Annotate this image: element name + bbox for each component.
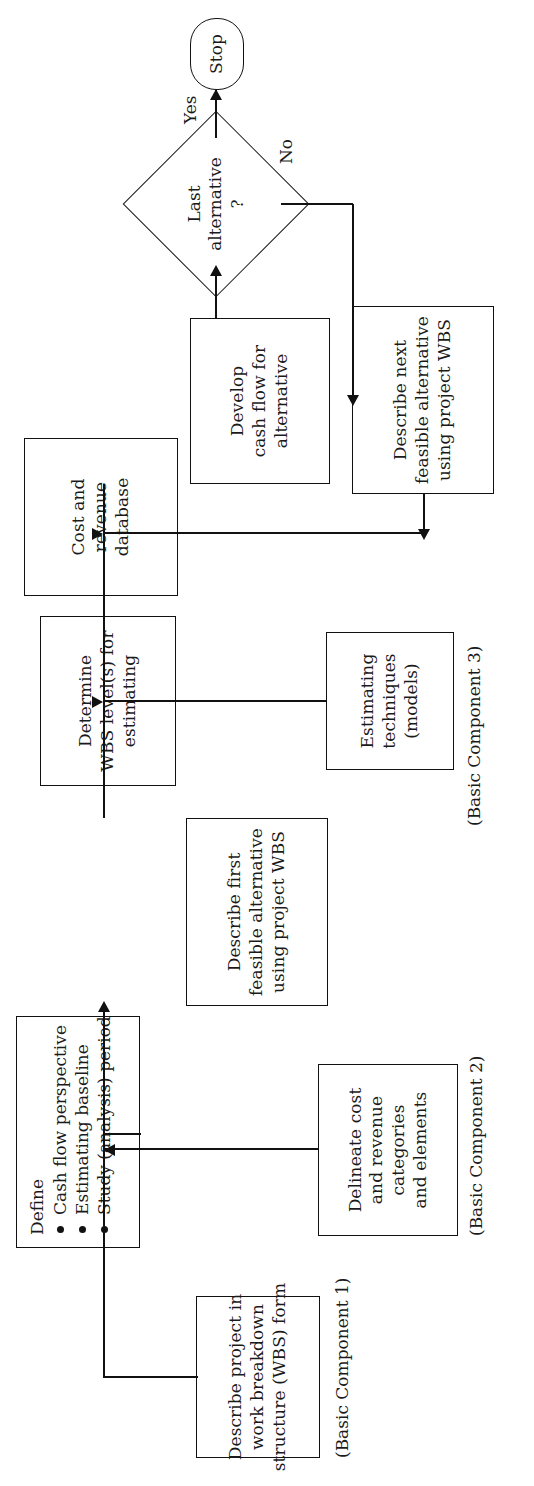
define-bullet-list: Cash flow perspective Estimating baselin… <box>49 1029 115 1235</box>
arrow-yes-into-stop <box>210 89 222 100</box>
node-line: Last <box>184 186 205 223</box>
node-line: categories <box>388 1105 410 1196</box>
node-line: Describe project in <box>225 1294 247 1460</box>
node-estimating-techniques[interactable]: Estimating techniques (models) <box>326 632 454 770</box>
node-describe-project-wbs[interactable]: Describe project in work breakdown struc… <box>196 1296 320 1458</box>
node-line: techniques <box>379 653 401 748</box>
node-line: using project WBS <box>268 831 290 993</box>
node-line: Estimating <box>357 654 379 749</box>
node-line: feasible alternative <box>246 828 268 996</box>
node-line: ? <box>227 199 248 208</box>
connector-define-stub <box>103 1133 141 1135</box>
spine-segment-1 <box>103 1006 105 1378</box>
list-item: Cash flow perspective <box>49 1029 71 1235</box>
node-line: alternative <box>205 157 226 251</box>
node-line: Stop <box>206 34 228 74</box>
diamond-text: Last alternative ? <box>150 138 282 270</box>
node-line: feasible alternative <box>412 316 434 484</box>
edge-label-no: No <box>276 139 296 164</box>
bullet-icon <box>57 1226 64 1233</box>
node-line: revenue <box>90 482 112 553</box>
node-line: and elements <box>410 1092 432 1209</box>
node-define[interactable]: Define Cash flow perspective Estimating … <box>16 1016 140 1248</box>
node-describe-first-alternative[interactable]: Describe first feasible alternative usin… <box>186 818 328 1006</box>
list-item: Estimating baseline <box>71 1029 93 1235</box>
connector-loopback-horizontal <box>423 493 425 534</box>
flowchart-canvas: Describe project in work breakdown struc… <box>0 0 534 1486</box>
rotated-page-wrapper: Describe project in work breakdown struc… <box>0 0 534 1486</box>
spine-segment-3 <box>103 484 105 536</box>
define-bullet-text: Cash flow perspective <box>50 1025 70 1215</box>
node-decision-last-alternative[interactable]: Last alternative ? <box>150 138 282 270</box>
node-line: Cost and <box>68 479 90 556</box>
node-line: work breakdown <box>247 1304 269 1450</box>
spine-segment-2 <box>103 536 105 818</box>
node-line: Describe first <box>224 853 246 972</box>
node-line: Delineate cost <box>345 1088 367 1213</box>
label-basic-component-2: (Basic Component 2) <box>466 1056 486 1236</box>
label-basic-component-1: (Basic Component 1) <box>332 1278 352 1458</box>
node-cost-revenue-database[interactable]: Cost and revenue database <box>24 438 178 596</box>
arrow-spine-into-describe-first <box>98 1001 110 1012</box>
node-line: cash flow for <box>249 345 271 458</box>
connector-delineate-to-spine <box>104 1148 318 1150</box>
node-line: Develop <box>227 366 249 437</box>
label-basic-component-3: (Basic Component 3) <box>464 646 484 826</box>
arrow-no-into-describe-next <box>347 395 359 406</box>
node-develop-cash-flow[interactable]: Develop cash flow for alternative <box>190 318 330 484</box>
node-line: structure (WBS) form <box>269 1283 291 1472</box>
node-line: (models) <box>401 663 423 739</box>
connector-estimating-techniques-to-spine <box>104 700 326 702</box>
node-describe-next-alternative[interactable]: Describe next feasible alternative using… <box>352 306 494 494</box>
edge-label-yes: Yes <box>180 95 200 124</box>
node-stop[interactable]: Stop <box>190 18 244 90</box>
connector-no-left <box>352 204 354 400</box>
connector-wbs-to-spine <box>104 1376 198 1378</box>
bullet-icon <box>79 1226 86 1233</box>
node-delineate-cost-revenue[interactable]: Delineate cost and revenue categories an… <box>318 1064 458 1236</box>
node-line: alternative <box>271 354 293 449</box>
arrow-delineate-into-spine <box>104 1144 115 1156</box>
node-line: Describe next <box>390 340 412 461</box>
arrow-develop-into-decision <box>210 265 222 276</box>
connector-no-down <box>281 203 353 205</box>
node-line: database <box>112 478 134 557</box>
node-line: and revenue <box>366 1096 388 1204</box>
node-line: using project WBS <box>434 319 456 481</box>
arrow-cost-db-into-spine <box>92 528 103 540</box>
define-bullet-text: Estimating baseline <box>72 1044 92 1215</box>
connector-loopback-vertical <box>104 532 424 534</box>
define-title: Define <box>26 1029 48 1235</box>
arrow-determine-into-spine <box>92 696 103 708</box>
arrow-loopback-into-spine <box>418 529 430 540</box>
